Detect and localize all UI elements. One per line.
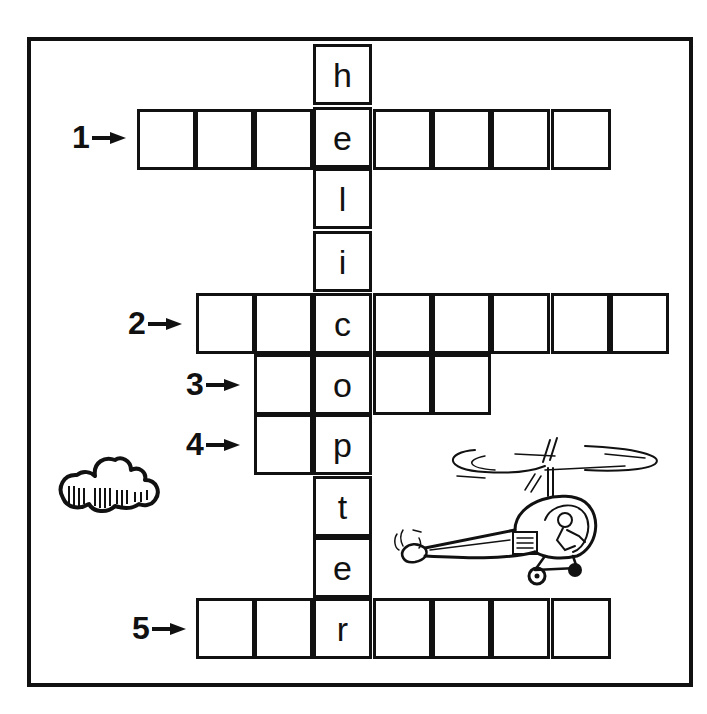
cloud-icon xyxy=(55,448,165,520)
row5-cell-1[interactable] xyxy=(196,598,255,659)
row1-cell-5[interactable] xyxy=(373,109,432,170)
row3-cell-1[interactable] xyxy=(254,354,313,415)
row1-cell-3[interactable] xyxy=(254,109,313,170)
vertical-cell-4: i xyxy=(313,231,372,292)
vertical-cell-7: p xyxy=(313,414,372,475)
clue-number: 5 xyxy=(132,610,150,647)
clue-number: 2 xyxy=(128,305,146,342)
arrow-right-icon xyxy=(92,131,126,145)
row4-cell-1[interactable] xyxy=(254,414,313,475)
row3-cell-4[interactable] xyxy=(432,354,491,415)
clue-number: 3 xyxy=(186,366,204,403)
clue-number: 1 xyxy=(72,119,90,156)
helicopter-icon xyxy=(385,430,675,595)
row3-cell-3[interactable] xyxy=(373,354,432,415)
row1-cell-2[interactable] xyxy=(195,109,254,170)
vertical-cell-2: e xyxy=(313,107,372,168)
row2-cell-5[interactable] xyxy=(432,293,491,354)
vertical-cell-5: c xyxy=(313,293,372,354)
row1-cell-8[interactable] xyxy=(551,109,611,170)
arrow-right-icon xyxy=(206,378,240,392)
arrow-right-icon xyxy=(152,622,186,636)
vertical-cell-3: l xyxy=(313,168,372,229)
row2-cell-7[interactable] xyxy=(551,293,610,354)
row1-cell-7[interactable] xyxy=(491,109,550,170)
clue-label-1: 1 xyxy=(72,107,126,168)
row2-cell-2[interactable] xyxy=(254,293,313,354)
clue-number: 4 xyxy=(186,426,204,463)
clue-label-4: 4 xyxy=(186,414,240,475)
row5-cell-4[interactable] xyxy=(373,598,432,659)
vertical-cell-9: e xyxy=(313,537,372,598)
row5-cell-2[interactable] xyxy=(254,598,313,659)
clue-label-2: 2 xyxy=(128,293,182,354)
vertical-cell-1: h xyxy=(313,44,372,105)
row2-cell-4[interactable] xyxy=(373,293,432,354)
row5-cell-6[interactable] xyxy=(491,598,550,659)
row5-cell-7[interactable] xyxy=(551,598,611,659)
vertical-cell-10: r xyxy=(313,598,372,659)
clue-label-3: 3 xyxy=(186,354,240,415)
row5-cell-5[interactable] xyxy=(432,598,491,659)
clue-label-5: 5 xyxy=(132,598,186,659)
row1-cell-1[interactable] xyxy=(137,109,196,170)
arrow-right-icon xyxy=(148,317,182,331)
vertical-cell-6: o xyxy=(313,354,372,415)
row2-cell-6[interactable] xyxy=(491,293,550,354)
row2-cell-1[interactable] xyxy=(196,293,255,354)
row1-cell-6[interactable] xyxy=(432,109,491,170)
arrow-right-icon xyxy=(206,438,240,452)
vertical-cell-8: t xyxy=(313,476,372,537)
row2-cell-8[interactable] xyxy=(610,293,669,354)
